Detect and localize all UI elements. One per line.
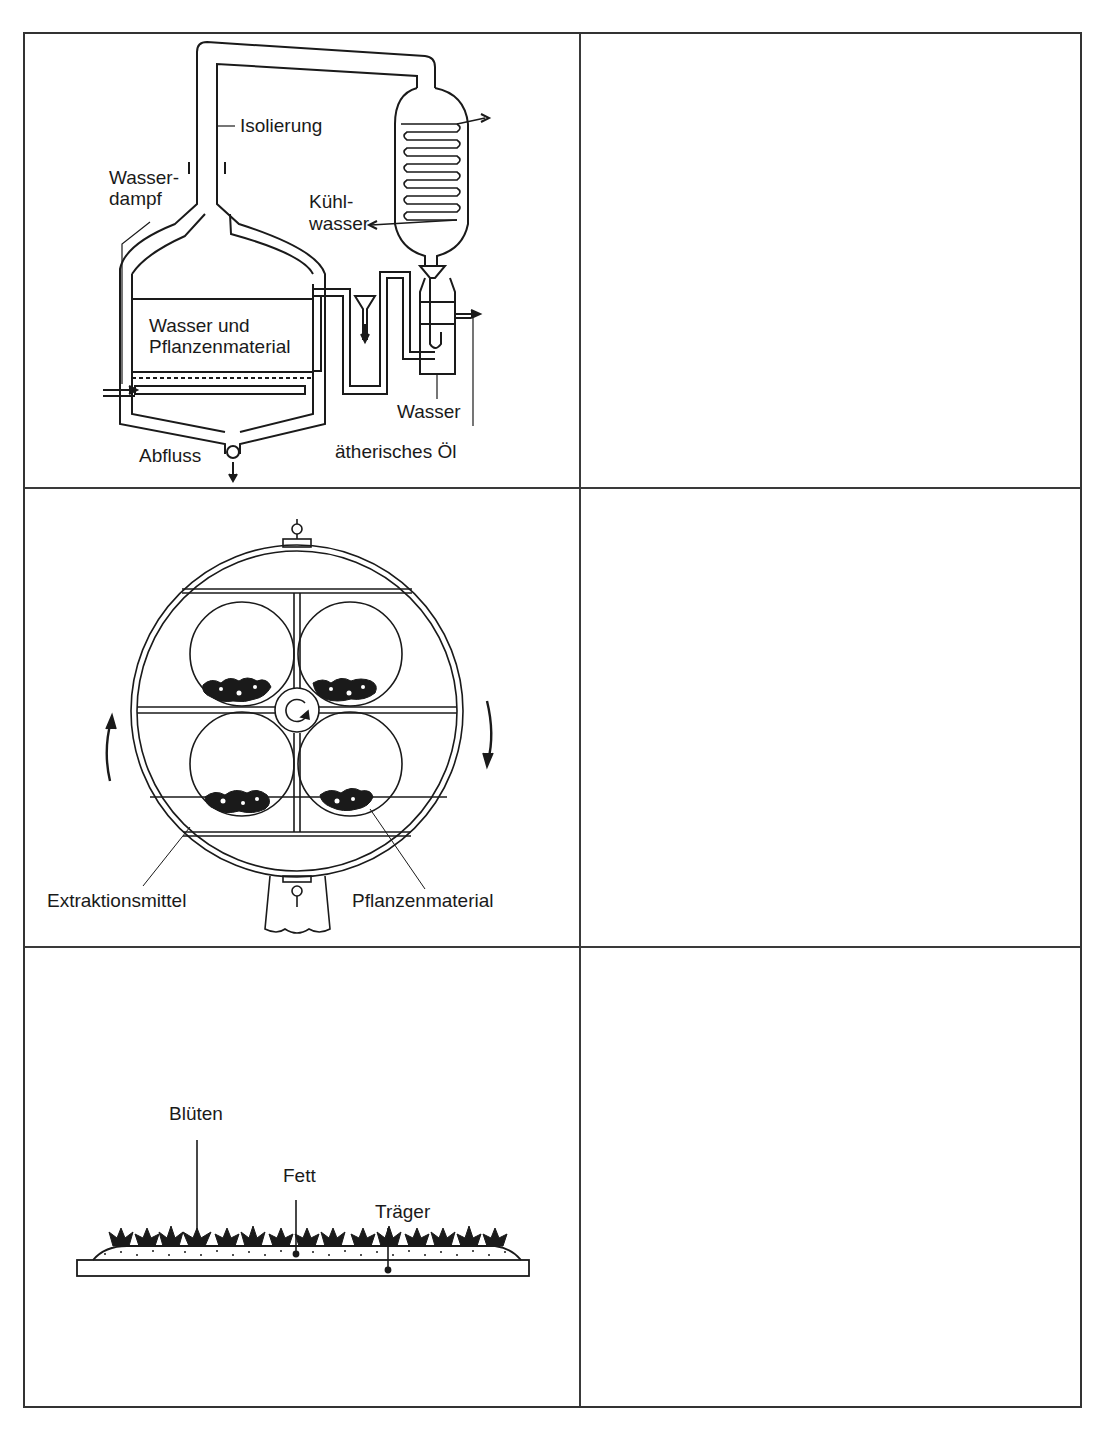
label-wasserdampf-line1: Wasser- — [109, 167, 179, 188]
answer-field-1[interactable] — [581, 34, 1082, 487]
label-kuehlwasser-line1: Kühl- — [309, 191, 353, 212]
cell-extraction-drum: Extraktionsmittel Pflanzenmaterial — [25, 489, 579, 946]
label-traeger: Träger — [375, 1201, 431, 1222]
label-wasser: Wasser — [397, 401, 461, 422]
answer-field-2[interactable] — [581, 489, 1082, 946]
label-abfluss: Abfluss — [139, 445, 201, 466]
label-blueten: Blüten — [169, 1103, 223, 1124]
cell-steam-distillation: Isolierung Wasser- dampf Kühl- wasser Wa… — [25, 34, 579, 487]
label-isolierung: Isolierung — [240, 115, 322, 136]
label-kuehlwasser-line2: wasser — [308, 213, 370, 234]
label-pflanzenmaterial-drum: Pflanzenmaterial — [352, 890, 494, 911]
answer-field-3[interactable] — [581, 948, 1082, 1408]
label-fett: Fett — [283, 1165, 316, 1186]
label-extraktionsmittel: Extraktionsmittel — [47, 890, 186, 911]
label-pflanzenmaterial: Pflanzenmaterial — [149, 336, 291, 357]
label-aetherisches-oel: ätherisches Öl — [335, 441, 456, 462]
enfleurage-labels: Blüten Fett Träger — [25, 948, 579, 1408]
worksheet-table: Isolierung Wasser- dampf Kühl- wasser Wa… — [23, 32, 1082, 1408]
label-wasserdampf-line2: dampf — [109, 188, 163, 209]
cell-enfleurage: Blüten Fett Träger — [25, 948, 579, 1408]
steam-distillation-labels: Isolierung Wasser- dampf Kühl- wasser Wa… — [25, 34, 579, 487]
extraction-drum-labels: Extraktionsmittel Pflanzenmaterial — [25, 489, 579, 946]
label-wasser-und: Wasser und — [149, 315, 250, 336]
